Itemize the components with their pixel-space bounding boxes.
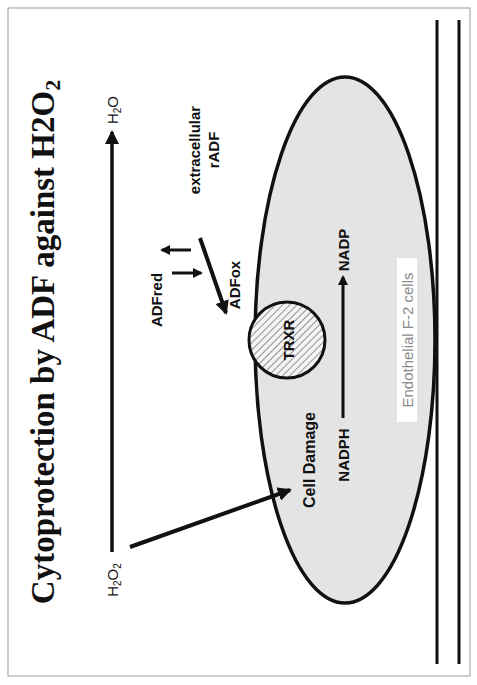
trxr-label: TRXR: [280, 319, 297, 360]
radf-label: rADF: [205, 132, 222, 169]
cell-damage-label: Cell Damage: [301, 412, 318, 508]
cell-type-label: Endothelial F-2 cells: [399, 272, 416, 407]
extracellular-label: extracellular: [186, 106, 203, 195]
nadp-label: NADP: [335, 229, 352, 272]
adf-red-label: ADFred: [148, 273, 165, 327]
adf-ox-label: ADFox: [226, 260, 243, 309]
slide-title: Cytoprotection by ADF against H2O2: [25, 80, 65, 604]
diagram-canvas: Cytoprotection by ADF against H2O2 H2O2 …: [0, 0, 477, 685]
nadph-label: NADPH: [335, 428, 352, 481]
